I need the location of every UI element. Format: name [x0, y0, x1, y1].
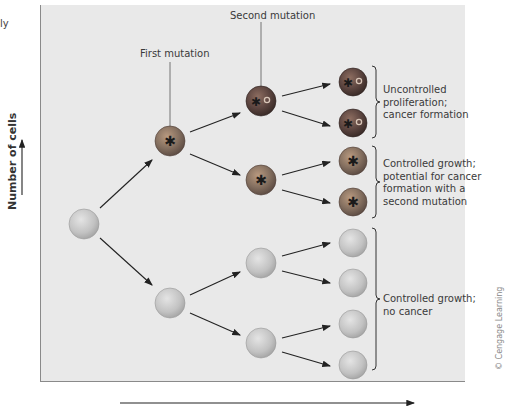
copyright-credit: © Cengage Learning [495, 287, 504, 370]
svg-text:✱: ✱ [347, 194, 359, 210]
svg-text:✱: ✱ [251, 95, 261, 109]
origin-cell [69, 209, 99, 239]
outcome-uncontrolled: Uncontrolled proliferation; cancer forma… [383, 84, 469, 122]
svg-text:✱: ✱ [343, 76, 353, 90]
mutated-cell: ✱ [155, 126, 185, 156]
double-mutated-cell: ✱ [339, 68, 367, 96]
svg-text:✱: ✱ [164, 133, 176, 149]
normal-cells [155, 229, 367, 379]
outcome-braces [372, 66, 380, 370]
y-axis-label: Number of cells [6, 113, 19, 210]
first-mutation-label: First mutation [140, 48, 210, 60]
outcome-controlled-no-cancer: Controlled growth; no cancer [383, 293, 476, 318]
svg-text:✱: ✱ [347, 153, 359, 169]
svg-text:✱: ✱ [343, 117, 353, 131]
outcome-controlled-potential: Controlled growth; potential for cancer … [383, 158, 481, 208]
double-mutated-cell: ✱ [246, 86, 276, 116]
double-mutated-cell: ✱ [339, 109, 367, 137]
mutated-cell: ✱ [339, 147, 367, 175]
mutated-cell: ✱ [339, 188, 367, 216]
mutated-cell: ✱ [246, 165, 276, 195]
svg-text:✱: ✱ [255, 172, 267, 188]
second-mutation-label: Second mutation [230, 10, 315, 22]
division-arrows [100, 84, 330, 366]
